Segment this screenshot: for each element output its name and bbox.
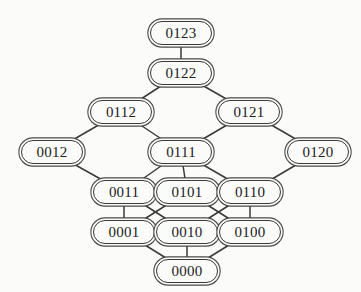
graph-node-label: 0100 xyxy=(235,225,266,240)
edge-0112-0012 xyxy=(71,123,102,141)
graph-node-label: 0110 xyxy=(235,185,265,200)
graph-node-0010[interactable]: 0010 xyxy=(156,220,218,244)
graph-node-0112[interactable]: 0112 xyxy=(90,100,152,124)
edge-0111-0011 xyxy=(140,163,166,181)
edge-0122-0112 xyxy=(138,84,164,101)
graph-node-0120[interactable]: 0120 xyxy=(287,140,349,164)
graph-node-0011[interactable]: 0011 xyxy=(93,180,155,204)
graph-node-label: 0001 xyxy=(109,225,140,240)
graph-node-label: 0011 xyxy=(109,185,139,200)
graph-node-label: 0121 xyxy=(234,105,265,120)
edge-0012-0011 xyxy=(72,163,104,181)
edge-0100-0000 xyxy=(205,243,232,260)
graph-node-label: 0123 xyxy=(166,26,197,41)
graph-node-0100[interactable]: 0100 xyxy=(219,220,281,244)
edge-0111-0110 xyxy=(200,163,231,181)
graph-node-label: 0112 xyxy=(106,105,136,120)
edge-0121-0120 xyxy=(268,123,299,141)
graph-node-0123[interactable]: 0123 xyxy=(150,21,212,45)
diagram-canvas: 0123012201120121001201110120001101010110… xyxy=(0,0,361,292)
edge-0120-0110 xyxy=(269,163,300,181)
graph-node-0121[interactable]: 0121 xyxy=(218,100,280,124)
graph-node-label: 0111 xyxy=(166,145,196,160)
graph-node-0012[interactable]: 0012 xyxy=(21,140,83,164)
edge-0121-0111 xyxy=(200,123,231,141)
graph-node-0110[interactable]: 0110 xyxy=(219,180,281,204)
edge-0122-0121 xyxy=(200,84,230,101)
graph-node-0111[interactable]: 0111 xyxy=(150,140,212,164)
graph-node-label: 0000 xyxy=(172,264,203,279)
graph-node-label: 0122 xyxy=(166,66,197,81)
graph-node-label: 0010 xyxy=(172,225,203,240)
graph-node-0122[interactable]: 0122 xyxy=(150,61,212,85)
graph-node-label: 0120 xyxy=(303,145,334,160)
graph-node-0101[interactable]: 0101 xyxy=(156,180,218,204)
edge-0112-0111 xyxy=(138,123,165,141)
graph-node-0001[interactable]: 0001 xyxy=(93,220,155,244)
edge-0001-0000 xyxy=(142,243,169,260)
edge-0111-0101 xyxy=(183,163,186,181)
graph-node-label: 0012 xyxy=(37,145,68,160)
graph-node-label: 0101 xyxy=(172,185,203,200)
graph-node-0000[interactable]: 0000 xyxy=(156,259,218,283)
